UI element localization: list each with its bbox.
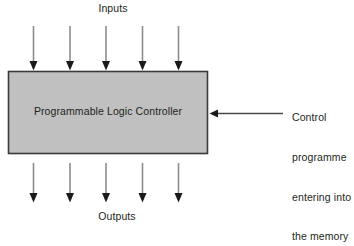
output-arrow	[30, 163, 38, 203]
outputs-label: Outputs	[0, 211, 234, 223]
control-note-line-4: the memory	[292, 230, 354, 243]
control-note-line-1: Control	[292, 111, 354, 124]
control-programme-arrow	[210, 110, 284, 118]
input-arrow	[66, 26, 74, 71]
inputs-label: Inputs	[0, 3, 226, 15]
output-arrow	[66, 163, 74, 203]
control-programme-note: Control programme entering into the memo…	[292, 85, 354, 246]
control-note-line-2: programme	[292, 151, 354, 164]
output-arrow	[139, 163, 147, 203]
control-note-line-3: entering into	[292, 191, 354, 204]
output-arrow	[175, 163, 183, 203]
output-arrow-group	[30, 163, 183, 203]
input-arrow	[175, 26, 183, 71]
output-arrow	[102, 163, 110, 203]
input-arrow	[139, 26, 147, 71]
input-arrow-group	[30, 26, 183, 71]
plc-block-label: Programmable Logic Controller	[8, 106, 208, 118]
input-arrow	[30, 26, 38, 71]
input-arrow	[102, 26, 110, 71]
